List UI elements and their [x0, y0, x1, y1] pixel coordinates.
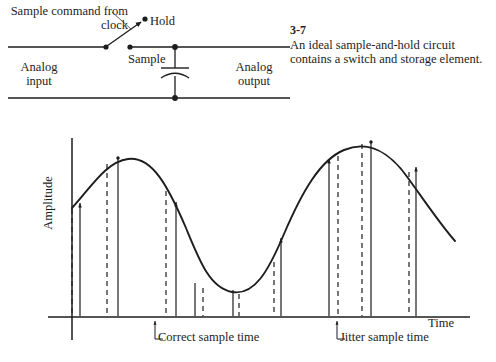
- jitter-sample-time-annotation: Jitter sample time: [340, 330, 429, 344]
- sample-pair-8: [362, 142, 371, 316]
- sample-command-label: Sample command from clock: [4, 4, 128, 32]
- sample-pair-3: [166, 191, 176, 316]
- sample-pair-4: [195, 283, 203, 316]
- y-axis-label: Amplitude: [41, 153, 55, 253]
- correct-sample-time-annotation: Correct sample time: [158, 330, 259, 344]
- sample-point-markers: [116, 140, 372, 159]
- figure-number: 3-7: [290, 24, 306, 37]
- waveform-plot: [48, 138, 470, 340]
- sample-label: Sample: [128, 52, 166, 66]
- sample-pair-1: [72, 203, 80, 316]
- analog-output-label: Analog output: [222, 60, 286, 88]
- sample-pair-7: [329, 156, 338, 316]
- figure-3-7: Sample command from clock Hold Sample An…: [0, 0, 496, 362]
- sample-pair-5: [233, 290, 239, 316]
- return-rail-node: [172, 95, 178, 101]
- analog-waveform-curve: [72, 146, 455, 292]
- figure-caption: An ideal sample-and-hold circuit contain…: [290, 38, 496, 66]
- x-axis-label: Time: [428, 316, 454, 330]
- sample-pair-9: [409, 167, 416, 316]
- sample-pair-2: [107, 158, 118, 316]
- hold-label: Hold: [150, 14, 175, 28]
- analog-input-label: Analog input: [8, 60, 70, 88]
- hold-contact-node: [142, 16, 147, 21]
